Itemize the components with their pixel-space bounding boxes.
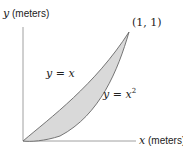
rhs: = x — [52, 67, 74, 80]
x-axis-label: x (meters) — [139, 134, 183, 147]
label-y-equals-x: y = x — [46, 67, 75, 80]
y-axis-label: y (meters) — [3, 7, 49, 20]
label-y-equals-x-squared: y = x2 — [103, 87, 136, 101]
exponent: 2 — [132, 87, 136, 95]
y-var: y — [3, 7, 9, 20]
point-label: (1, 1) — [132, 16, 162, 29]
rhs: = x — [109, 88, 131, 101]
y-unit: (meters) — [12, 8, 49, 19]
x-unit: (meters) — [148, 135, 183, 146]
x-var: x — [139, 134, 145, 147]
